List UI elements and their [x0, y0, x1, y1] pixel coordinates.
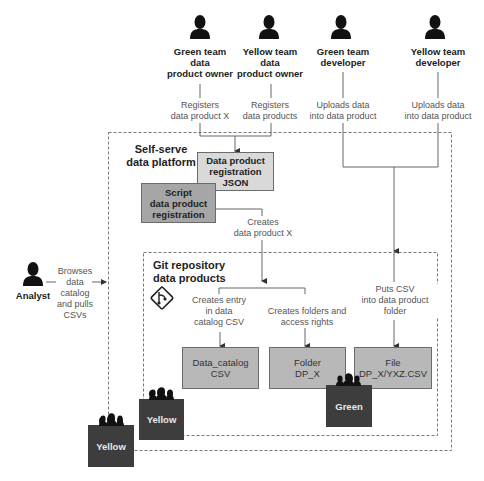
label-line: Yellow team: [393, 46, 483, 57]
team-yellow-inner-box: Yellow: [139, 399, 184, 440]
box-line: Folder: [294, 357, 321, 368]
note-line: Uploads data: [296, 100, 390, 111]
title-line: data platform: [118, 156, 204, 169]
data-catalog-csv-box[interactable]: Data_catalog CSV: [182, 347, 259, 389]
note-line: Creates entry: [186, 295, 252, 306]
title-line: data products: [153, 272, 226, 285]
note-line: Creates folders and: [262, 306, 352, 317]
puts-csv-note: Puts CSV into data product folder: [352, 284, 438, 317]
note-line: Browses: [56, 266, 94, 277]
creates-note: Creates data product X: [226, 217, 300, 239]
note-line: and pulls: [56, 299, 94, 310]
green-dev-action: Uploads data into data product: [296, 100, 390, 122]
file-csv-box[interactable]: File DP_X/YXZ.CSV: [354, 347, 432, 389]
box-line: registration: [150, 209, 208, 220]
note-line: access rights: [262, 317, 352, 328]
note-line: Puts CSV: [352, 284, 438, 295]
team-green-box: Green: [326, 385, 372, 427]
box-line: DP_X: [294, 368, 321, 379]
note-line: in data: [186, 306, 252, 317]
folders-note: Creates folders and access rights: [262, 306, 352, 328]
team-label: Green: [335, 401, 362, 412]
team-label: Yellow: [96, 441, 126, 452]
note-line: into data product: [352, 295, 438, 306]
note-line: Uploads data: [391, 100, 484, 111]
box-line: registration: [206, 166, 265, 177]
note-line: CSVs: [56, 310, 94, 321]
label-line: Analyst: [8, 290, 58, 301]
note-line: data: [56, 277, 94, 288]
label-line: developer: [298, 57, 388, 68]
analyst-action: Browses data catalog and pulls CSVs: [56, 266, 94, 321]
box-line: File: [359, 357, 427, 368]
team-yellow-outer-box: Yellow: [88, 425, 134, 467]
title-line: Self-serve: [118, 143, 204, 156]
box-line: DP_X/YXZ.CSV: [359, 368, 427, 379]
label-line: developer: [393, 57, 483, 68]
team-label: Yellow: [147, 414, 177, 425]
box-line: CSV: [193, 368, 249, 379]
actor-green-dev-label: Green team developer: [298, 46, 388, 68]
actor-yellow-dev-label: Yellow team developer: [393, 46, 483, 68]
note-line: into data product: [296, 111, 390, 122]
note-line: catalog CSV: [186, 317, 252, 328]
box-line: Script: [150, 187, 208, 198]
git-repo-title: Git repository data products: [153, 259, 226, 285]
box-line: Data product: [206, 155, 265, 166]
actor-analyst-label: Analyst: [8, 290, 58, 301]
title-line: Git repository: [153, 259, 226, 272]
note-line: data product X: [226, 228, 300, 239]
script-registration-box[interactable]: Script data product registration: [141, 183, 216, 223]
catalog-entry-note: Creates entry in data catalog CSV: [186, 295, 252, 328]
folder-dp-x-box[interactable]: Folder DP_X: [269, 347, 346, 389]
note-line: Creates: [226, 217, 300, 228]
note-line: catalog: [56, 288, 94, 299]
note-line: into data product: [391, 111, 484, 122]
label-line: Green team: [298, 46, 388, 57]
yellow-dev-action: Uploads data into data product: [391, 100, 484, 122]
box-line: Data_catalog: [193, 357, 249, 368]
git-icon: [151, 287, 174, 310]
label-line: product owner: [228, 68, 312, 79]
box-line: data product: [150, 198, 208, 209]
note-line: folder: [352, 306, 438, 317]
platform-title: Self-serve data platform: [118, 143, 204, 169]
